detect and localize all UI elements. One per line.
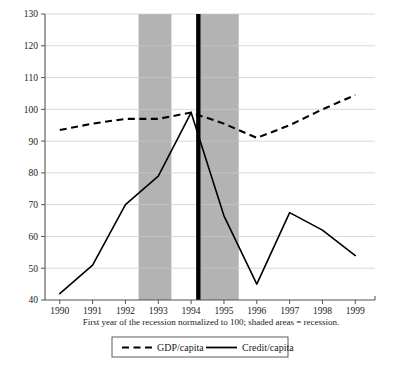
- chart-figure: 405060708090100110120130 199019911992199…: [0, 0, 393, 373]
- y-tick-label-90: 90: [29, 137, 39, 147]
- y-tick-label-120: 120: [24, 41, 39, 51]
- y-tick-label-50: 50: [29, 264, 39, 274]
- recession-start-marker: [196, 14, 200, 300]
- y-tick-label-40: 40: [29, 295, 39, 305]
- y-tick-label-130: 130: [24, 9, 39, 19]
- recession-band-1: [139, 14, 172, 300]
- recession-start-marker: [196, 14, 200, 300]
- x-tick-label-1991: 1991: [83, 306, 102, 316]
- chart-caption: First year of the recession normalized t…: [83, 317, 340, 327]
- y-tick-label-70: 70: [29, 200, 39, 210]
- x-tick-label-1997: 1997: [280, 306, 299, 316]
- y-tick-label-100: 100: [24, 105, 39, 115]
- x-tick-label-1993: 1993: [149, 306, 168, 316]
- line-chart: 405060708090100110120130 199019911992199…: [0, 0, 393, 373]
- x-tick-label-1998: 1998: [313, 306, 332, 316]
- x-tick-label-1996: 1996: [247, 306, 266, 316]
- chart-legend: GDP/capita Credit/capita: [112, 337, 294, 357]
- y-tick-label-80: 80: [29, 168, 39, 178]
- x-tick-label-1999: 1999: [346, 306, 365, 316]
- y-tick-label-110: 110: [24, 73, 38, 83]
- y-tick-label-60: 60: [29, 232, 39, 242]
- x-tick-label-1995: 1995: [214, 306, 233, 316]
- legend-label-credit-capita: Credit/capita: [242, 342, 294, 353]
- x-tick-label-1992: 1992: [116, 306, 135, 316]
- x-tick-label-1994: 1994: [182, 306, 201, 316]
- x-tick-label-1990: 1990: [50, 306, 69, 316]
- x-axis-ticks: 1990199119921993199419951996199719981999: [50, 300, 365, 316]
- legend-label-gdp-capita: GDP/capita: [157, 342, 204, 353]
- y-axis-ticks: 405060708090100110120130: [24, 9, 45, 305]
